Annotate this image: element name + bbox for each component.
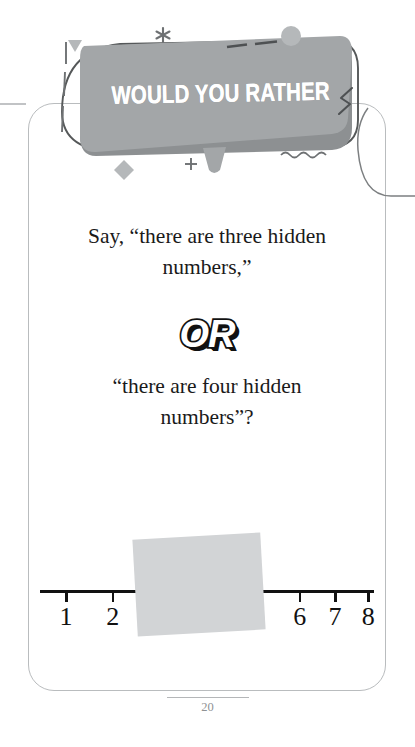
number-line-tick <box>299 593 302 602</box>
number-line-tick <box>65 593 68 602</box>
sticky-note-cover <box>132 533 265 637</box>
or-divider-label: OR <box>28 313 386 356</box>
number-line-label: 7 <box>323 602 347 632</box>
number-line-tick <box>112 593 115 602</box>
worksheet-page: WOULD YOU RATHER Say, “there are three h… <box>0 0 415 747</box>
number-line-tick <box>367 593 370 602</box>
number-line-tick <box>334 593 337 602</box>
number-line: 12678 <box>40 558 374 648</box>
footer-divider <box>167 697 249 698</box>
card-content: Say, “there are three hidden numbers,” O… <box>28 103 386 691</box>
prompt-option-b: “there are four hidden numbers”? <box>28 371 386 433</box>
number-line-label: 8 <box>356 602 380 632</box>
prompt-option-a: Say, “there are three hidden numbers,” <box>28 221 386 283</box>
number-line-label: 6 <box>288 602 312 632</box>
number-line-label: 1 <box>54 602 78 632</box>
number-line-label: 2 <box>101 602 125 632</box>
page-number: 20 <box>0 700 415 715</box>
